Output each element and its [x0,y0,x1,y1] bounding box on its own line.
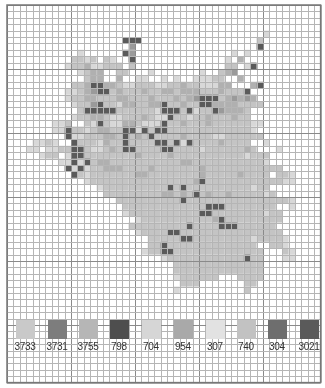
color-swatch [237,320,256,339]
legend-item: 954 [169,320,197,352]
color-swatch [142,320,161,339]
legend-item: 740 [232,320,260,352]
legend-item: 3733 [11,320,39,352]
thread-code: 704 [137,341,165,352]
color-swatch [79,320,98,339]
legend-item: 704 [137,320,165,352]
thread-code: 307 [201,341,229,352]
color-swatch [206,320,225,339]
thread-code: 3755 [74,341,102,352]
color-swatch [300,320,319,339]
color-swatch [110,320,129,339]
thread-code: 304 [263,341,291,352]
legend-item: 3731 [43,320,71,352]
thread-code: 740 [232,341,260,352]
legend-item: 3755 [74,320,102,352]
color-swatch [268,320,287,339]
legend-item: 304 [263,320,291,352]
thread-code: 3731 [43,341,71,352]
color-swatch [16,320,35,339]
legend-item: 307 [201,320,229,352]
thread-code: 3733 [11,341,39,352]
color-swatch [174,320,193,339]
thread-code: 798 [105,341,133,352]
thread-code: 954 [169,341,197,352]
legend-item: 3021 [295,320,323,352]
legend-item: 798 [105,320,133,352]
color-swatch [48,320,67,339]
color-key-legend: 3733 3731 3755 798 704 954 307 740 304 3… [7,320,320,360]
thread-code: 3021 [295,341,323,352]
